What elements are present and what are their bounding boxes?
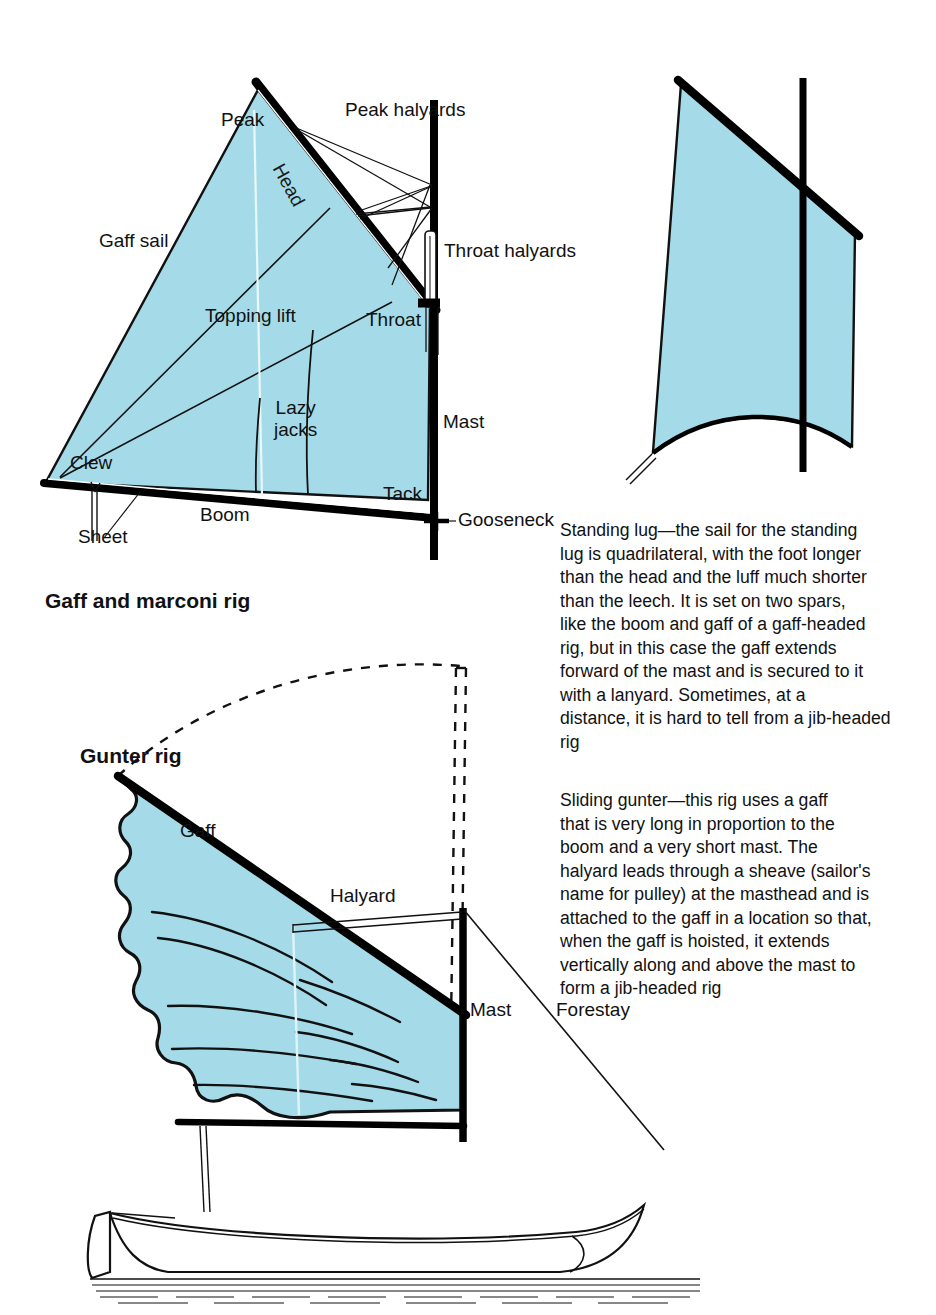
label-gunter-mast: Mast: [470, 1000, 511, 1021]
label-lazy-jacks: Lazy jacks: [274, 397, 317, 441]
standing-lug-description: Standing lug—the sail for the standing l…: [560, 519, 932, 754]
label-peak-halyards: Peak halyards: [345, 100, 465, 121]
diagram-page: Peak Peak halyards Head Gaff sail Throat…: [0, 0, 936, 1315]
label-forestay: Forestay: [556, 1000, 630, 1021]
label-gooseneck: Gooseneck: [458, 510, 554, 531]
gaff-sail-shape: [46, 88, 430, 500]
gunter-sail-shape: [116, 780, 462, 1118]
sliding-gunter-description: Sliding gunter—this rig uses a gaff that…: [560, 789, 932, 1001]
caption-gaff-and-marconi-rig: Gaff and marconi rig: [45, 589, 250, 613]
label-tack: Tack: [383, 484, 422, 505]
label-topping-lift: Topping lift: [205, 306, 296, 327]
label-halyard: Halyard: [330, 886, 395, 907]
label-gaff-sail: Gaff sail: [99, 231, 168, 252]
label-peak: Peak: [221, 110, 264, 131]
label-boom: Boom: [200, 505, 250, 526]
water-lines: [90, 1279, 700, 1303]
hoisted-gaff-dashed-left: [451, 668, 456, 1025]
label-clew: Clew: [70, 453, 112, 474]
gunter-boom-spar: [178, 1122, 464, 1126]
label-throat-halyards: Throat halyards: [444, 241, 576, 262]
boat-hull: [88, 1205, 644, 1278]
label-gaff: Gaff: [180, 821, 216, 842]
standing-lug-figure: [626, 78, 859, 484]
label-throat: Throat: [366, 310, 421, 331]
title-gunter-rig: Gunter rig: [80, 744, 182, 768]
label-sheet: Sheet: [78, 527, 128, 548]
gunter-sheet-lines: [200, 1126, 210, 1212]
label-mast: Mast: [443, 412, 484, 433]
standing-lug-sail-shape: [653, 84, 855, 452]
lug-tack-lanyard: [626, 454, 656, 484]
